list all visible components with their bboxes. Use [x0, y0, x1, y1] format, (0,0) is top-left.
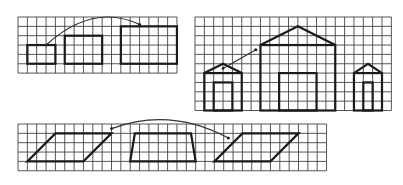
houses-panel	[195, 17, 391, 111]
parallelogram-left	[27, 133, 111, 161]
arrow-head-icon	[138, 23, 141, 26]
rectangles-panel	[18, 17, 177, 73]
parallelograms-panel	[18, 120, 327, 171]
arrow-head-icon	[227, 136, 230, 139]
arrow-tail-icon	[222, 67, 225, 70]
diagram-canvas	[0, 0, 403, 185]
narrow-house	[354, 64, 382, 111]
parallelogram-middle	[130, 133, 195, 161]
arrow-tail-icon	[110, 127, 113, 130]
arrow-tail-icon	[45, 44, 48, 47]
house-roof	[354, 64, 382, 73]
double-arc-arrow	[112, 120, 229, 138]
grid-lines	[18, 124, 327, 171]
arrow-head-icon	[254, 48, 257, 51]
house-door	[363, 82, 372, 110]
